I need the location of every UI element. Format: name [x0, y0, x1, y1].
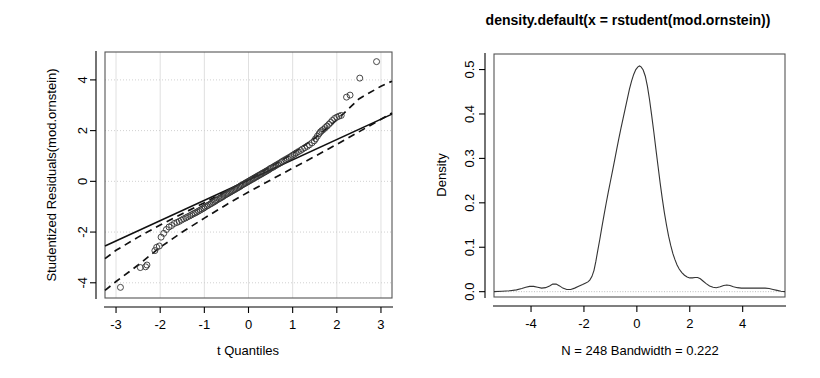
qq-x-tick-label: 2 [333, 317, 340, 332]
qq-x-axis: -3-2-10123 [104, 307, 393, 332]
qq-x-tick-label: 0 [245, 317, 252, 332]
qq-x-tick-label: -2 [154, 317, 166, 332]
density-plot-title: density.default(x = rstudent(mod.ornstei… [486, 12, 771, 28]
density-curve [494, 66, 785, 292]
density-y-axis-title: Density [434, 153, 449, 197]
qq-plot-svg: -3-2-10123 -4-2024 t Quantiles Studentiz… [0, 0, 410, 378]
density-y-axis: 0.00.10.20.30.40.5 [463, 53, 486, 301]
density-x-tick-label: 4 [739, 316, 746, 331]
qq-point [117, 284, 123, 290]
figure-canvas: -3-2-10123 -4-2024 t Quantiles Studentiz… [0, 0, 820, 378]
qq-point [374, 59, 380, 65]
density-x-tick-label: -4 [525, 316, 537, 331]
density-y-tick-label: 0.3 [463, 149, 478, 167]
qq-point [144, 262, 150, 268]
qq-point [326, 121, 332, 127]
density-x-axis: -4-2024 [493, 306, 786, 331]
density-plot-panel: density.default(x = rstudent(mod.ornstei… [410, 0, 820, 378]
qq-y-axis: -4-2024 [76, 51, 97, 299]
qq-point [357, 75, 363, 81]
qq-y-tick-label: 4 [76, 76, 91, 83]
qq-point [344, 94, 350, 100]
qq-x-tick-label: 3 [377, 317, 384, 332]
qq-y-axis-title: Studentized Residuals(mod.ornstein) [44, 68, 59, 281]
qq-y-tick-label: -2 [76, 226, 91, 238]
qq-x-tick-label: -3 [110, 317, 122, 332]
density-x-axis-title: N = 248 Bandwidth = 0.222 [561, 343, 719, 358]
qq-y-tick-label: 0 [76, 178, 91, 185]
density-y-tick-label: 0.0 [463, 283, 478, 301]
qq-x-tick-label: 1 [289, 317, 296, 332]
density-x-tick-label: 0 [633, 316, 640, 331]
qq-y-tick-label: 2 [76, 127, 91, 134]
density-plot-svg: density.default(x = rstudent(mod.ornstei… [410, 0, 820, 378]
density-y-tick-label: 0.5 [463, 61, 478, 79]
qq-plot-panel: -3-2-10123 -4-2024 t Quantiles Studentiz… [0, 0, 410, 378]
qq-point [347, 92, 353, 98]
density-y-tick-label: 0.1 [463, 238, 478, 256]
qq-x-axis-title: t Quantiles [217, 343, 280, 358]
qq-x-tick-label: -1 [199, 317, 211, 332]
qq-gridlines [105, 52, 392, 298]
qq-y-tick-label: -4 [76, 277, 91, 289]
density-y-tick-label: 0.2 [463, 194, 478, 212]
density-plot-box [494, 54, 785, 297]
density-x-tick-label: -2 [578, 316, 590, 331]
density-x-tick-label: 2 [686, 316, 693, 331]
density-y-tick-label: 0.4 [463, 105, 478, 123]
